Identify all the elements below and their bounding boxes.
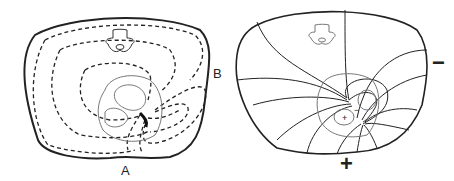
electrode-label-b: B bbox=[213, 66, 222, 81]
dipole-marker bbox=[140, 113, 147, 127]
heart-outline bbox=[98, 76, 162, 142]
vertebra-icon bbox=[309, 24, 335, 44]
negative-pole-label: − bbox=[432, 52, 445, 74]
heart-positive-sign: + bbox=[342, 113, 347, 123]
heart-negative-sign: − bbox=[354, 105, 359, 115]
positive-pole-label: + bbox=[340, 153, 353, 175]
electrode-label-a: A bbox=[121, 163, 130, 178]
thorax-current-diagram bbox=[0, 0, 227, 181]
heart-outline bbox=[317, 74, 379, 137]
panel-current-flow bbox=[0, 0, 227, 181]
